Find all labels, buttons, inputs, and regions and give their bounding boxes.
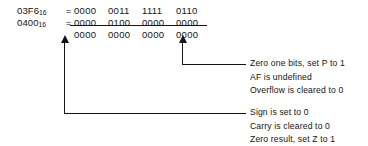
annotation-upper: Zero one bits, set P to 1 AF is undefine… (250, 57, 345, 98)
addend-row-1: 03F616 = 0000 0011 1111 0110 (17, 5, 217, 16)
nibble: 1111 (142, 5, 176, 16)
nibble: 0000 (142, 29, 176, 40)
leader-line-upper-vertical (182, 42, 183, 65)
arrow-up-icon (179, 35, 187, 43)
diagram-canvas: 03F616 = 0000 0011 1111 0110 040016 = 00… (0, 0, 368, 146)
nibble: 0011 (108, 5, 142, 16)
nibble: 0100 (108, 17, 142, 28)
nibble: 0000 (74, 17, 108, 28)
hex-operand-1: 03F616 (17, 5, 63, 16)
equals-sign-2: = (63, 17, 74, 28)
binary-addition-block: 03F616 = 0000 0011 1111 0110 040016 = 00… (17, 5, 217, 41)
annotation-line: AF is undefined (250, 71, 345, 85)
annotation-line: Overflow is cleared to 0 (250, 84, 345, 98)
nibble: 0000 (74, 29, 108, 40)
hex-operand-2: 040016 (17, 17, 63, 28)
annotation-line: Sign is set to 0 (250, 106, 335, 120)
binary-operand-2: 0000 0100 0000 0000 (74, 17, 206, 28)
annotation-line: Zero result, set Z to 1 (250, 133, 335, 146)
leader-line-lower-vertical (64, 42, 65, 113)
hex-subscript-2: 16 (39, 21, 47, 28)
nibble: 0000 (74, 5, 108, 16)
equals-sign-1: = (63, 5, 74, 16)
annotation-line: Carry is cleared to 0 (250, 120, 335, 134)
annotation-line: Zero one bits, set P to 1 (250, 57, 345, 71)
hex-subscript-1: 16 (39, 9, 47, 16)
nibble: 0000 (108, 29, 142, 40)
addend-row-2: 040016 = 0000 0100 0000 0000 (17, 17, 217, 28)
nibble: 0000 (176, 17, 206, 28)
leader-line-lower-horizontal (64, 113, 246, 114)
nibble: 0110 (176, 5, 206, 16)
addition-rule-line (70, 25, 207, 26)
sum-row: 0000 0000 0000 0000 (17, 29, 217, 40)
binary-operand-1: 0000 0011 1111 0110 (74, 5, 206, 16)
arrow-up-icon (61, 35, 69, 43)
annotation-lower: Sign is set to 0 Carry is cleared to 0 Z… (250, 106, 335, 146)
leader-line-upper-horizontal (182, 64, 246, 65)
nibble: 0000 (142, 17, 176, 28)
